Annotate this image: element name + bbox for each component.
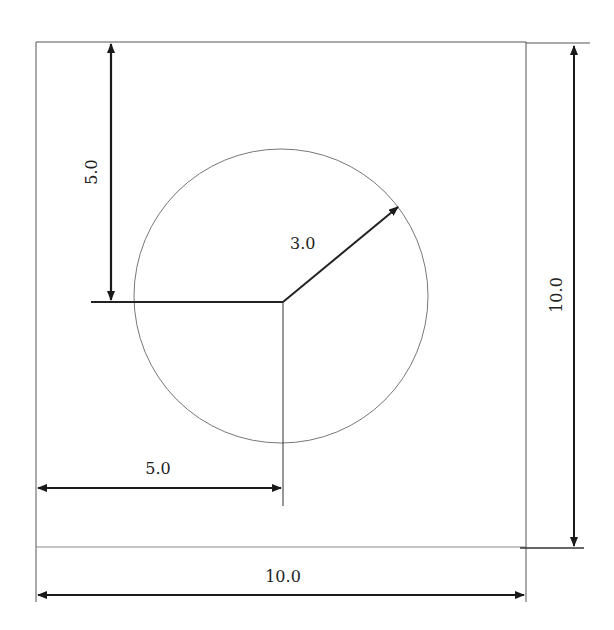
horizontal-offset-label: 5.0 (145, 459, 170, 478)
square-outline (36, 42, 526, 602)
circle-outline (134, 149, 428, 443)
center-reference-lines (91, 302, 283, 506)
height-label: 10.0 (547, 277, 566, 313)
radius-label: 3.0 (290, 234, 315, 253)
radius-arrow (283, 207, 398, 302)
width-label: 10.0 (265, 567, 301, 586)
vertical-offset-label: 5.0 (82, 159, 101, 184)
drawing-canvas: 3.0 5.0 10.0 5.0 10.0 (0, 0, 614, 630)
